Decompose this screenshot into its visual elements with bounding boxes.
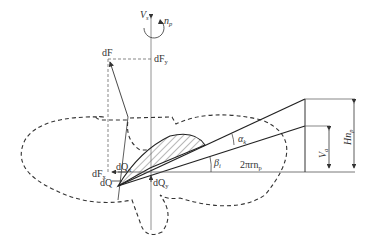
label-np: np <box>164 15 173 27</box>
label-dFy: dFy <box>154 53 169 65</box>
label-dQx: dQx <box>116 161 132 173</box>
propeller-force-diagram: Vs np dF dFy dFx dQx dQ dQy αk βi 2πrnp … <box>0 0 371 237</box>
label-Vs: Vs <box>140 9 149 21</box>
label-2pirnp: 2πrnp <box>240 159 262 171</box>
label-Va: Va <box>317 149 329 158</box>
force-vector-dF <box>110 62 128 117</box>
label-beta-i: βi <box>213 157 221 169</box>
label-dQ: dQ <box>100 177 113 188</box>
label-dQy: dQy <box>153 177 169 189</box>
label-alpha-k: αk <box>238 133 246 145</box>
label-dF: dF <box>102 47 113 58</box>
rotation-arrow-icon <box>144 22 164 38</box>
label-Hnp: Hnp <box>342 129 354 146</box>
